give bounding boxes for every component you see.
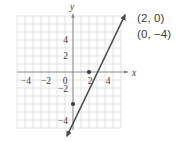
y-tick-label-neg2: −2 — [58, 84, 68, 94]
y-tick-label-neg4: −4 — [58, 116, 68, 126]
x-tick-label-2: 2 — [88, 76, 93, 86]
annotation-point-2: (0, −4) — [137, 26, 195, 42]
point-annotations: (2, 0) (0, −4) — [137, 10, 195, 43]
annotation-point-1: (2, 0) — [137, 10, 195, 26]
data-point-x-intercept — [87, 70, 91, 74]
x-axis-label: x — [131, 68, 137, 78]
y-axis-label: y — [69, 2, 75, 12]
x-tick-label-4: 4 — [106, 76, 111, 86]
data-point-y-intercept — [71, 102, 75, 106]
y-tick-label-2: 2 — [63, 51, 68, 61]
y-tick-label-4: 4 — [63, 35, 68, 45]
plotted-line — [67, 15, 125, 136]
x-tick-label-neg2: −2 — [41, 76, 51, 86]
x-tick-label-neg4: −4 — [21, 76, 31, 86]
coordinate-graph-figure: −4 −2 0 2 4 4 2 −2 −4 x y (2, 0) (0, −4) — [0, 0, 196, 142]
